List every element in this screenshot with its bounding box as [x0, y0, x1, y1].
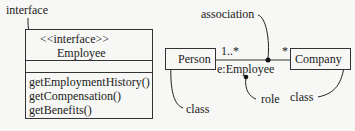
operation-item: getBenefits()	[29, 103, 150, 117]
class-person-box: Person	[165, 48, 216, 70]
multiplicity-right: *	[282, 45, 288, 58]
interface-operations-compartment: getEmploymentHistory() getCompensation()…	[29, 75, 150, 117]
class-company-name: Company	[295, 49, 342, 69]
class-company-box: Company	[290, 48, 351, 70]
role-note-label: role	[261, 93, 280, 106]
interface-stereotype: <<interface>>	[40, 32, 109, 47]
interface-employee-box: <<interface>> Employee getEmploymentHist…	[25, 29, 153, 119]
interface-name-compartment: <<interface>> Employee	[26, 30, 152, 61]
interface-name: Employee	[57, 46, 106, 61]
operation-item: getEmploymentHistory()	[29, 75, 150, 89]
interface-note-label: interface	[6, 4, 48, 17]
multiplicity-left: 1..*	[221, 45, 239, 58]
class-person-name: Person	[178, 49, 211, 69]
class-note-label-right: class	[290, 91, 313, 104]
operation-item: getCompensation()	[29, 89, 150, 103]
interface-attributes-compartment	[26, 61, 152, 73]
role-name: e:Employee	[217, 63, 274, 76]
class-note-label-left: class	[186, 103, 209, 116]
association-label: association	[201, 8, 254, 21]
